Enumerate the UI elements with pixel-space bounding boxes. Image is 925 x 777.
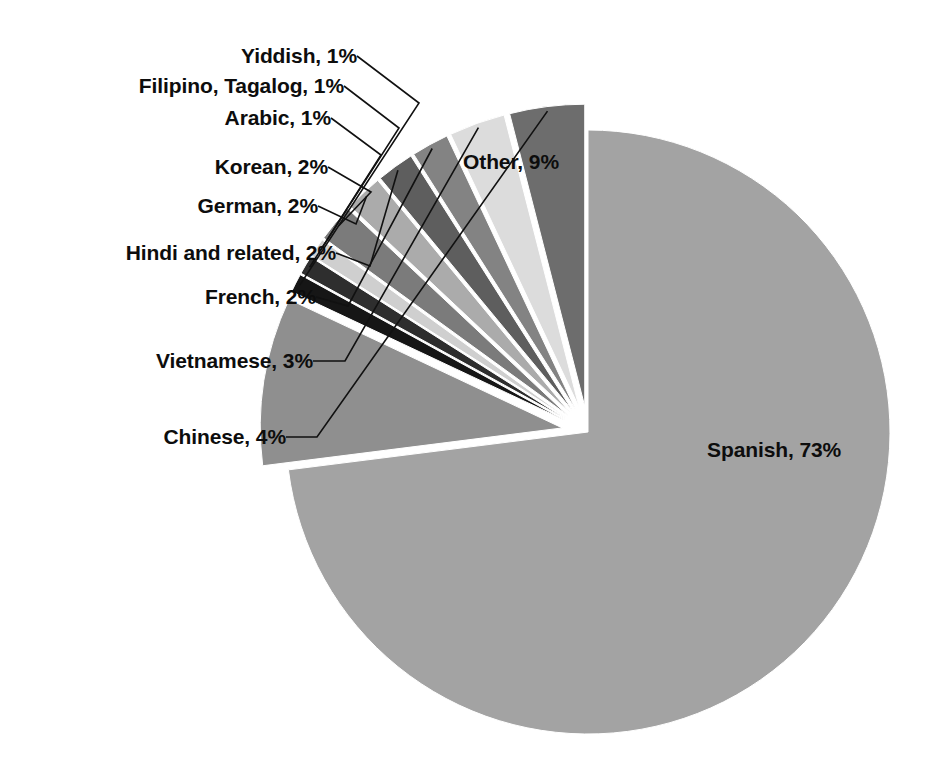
pie-label-chinese: Chinese, 4% bbox=[163, 425, 286, 449]
pie-label-german: German, 2% bbox=[198, 194, 318, 218]
pie-label-korean: Korean, 2% bbox=[215, 155, 328, 179]
pie-label-filipino-tagalog: Filipino, Tagalog, 1% bbox=[139, 74, 344, 98]
pie-label-vietnamese: Vietnamese, 3% bbox=[156, 349, 313, 373]
pie-chart-figure: Spanish, 73%Other, 9%Yiddish, 1%Filipino… bbox=[0, 0, 925, 777]
pie-label-arabic: Arabic, 1% bbox=[225, 106, 331, 130]
pie-label-other: Other, 9% bbox=[463, 150, 559, 174]
pie-label-yiddish: Yiddish, 1% bbox=[241, 44, 357, 68]
pie-label-french: French, 2% bbox=[205, 285, 316, 309]
pie-slice-layer bbox=[260, 104, 890, 734]
pie-chart-canvas bbox=[0, 0, 925, 777]
pie-label-hindi-and-related: Hindi and related, 2% bbox=[126, 241, 336, 265]
pie-label-spanish: Spanish, 73% bbox=[707, 438, 841, 462]
